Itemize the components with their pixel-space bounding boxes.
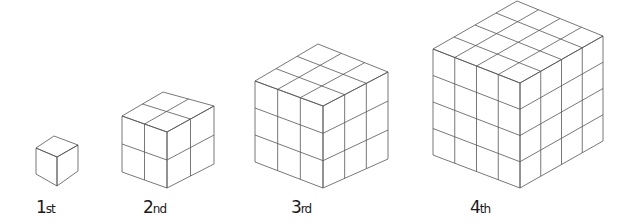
cube-label-4th: 4th bbox=[470, 197, 490, 217]
cube-sequence-figure: 1st 2nd 3rd 4th bbox=[0, 0, 632, 224]
label-number: 3 bbox=[291, 197, 301, 217]
cubes-drawing bbox=[0, 0, 632, 224]
cube-label-2nd: 2nd bbox=[143, 197, 166, 217]
label-number: 2 bbox=[143, 197, 153, 217]
label-number: 4 bbox=[470, 197, 480, 217]
cube-label-1st: 1st bbox=[36, 197, 55, 217]
cube-2x2 bbox=[122, 92, 214, 188]
cube-1x1 bbox=[36, 136, 78, 186]
cube-label-3rd: 3rd bbox=[291, 197, 311, 217]
label-suffix: rd bbox=[301, 202, 311, 216]
label-suffix: st bbox=[46, 202, 55, 216]
label-suffix: th bbox=[480, 202, 490, 216]
label-number: 1 bbox=[36, 197, 46, 217]
cube-3x3 bbox=[255, 44, 388, 188]
label-suffix: nd bbox=[153, 202, 166, 216]
cube-4x4 bbox=[433, 1, 603, 188]
